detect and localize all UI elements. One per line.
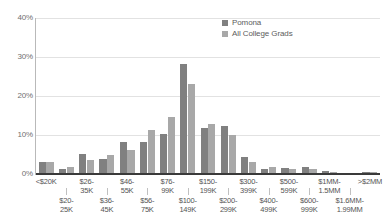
- x-axis-tick-label: $76- 99K: [151, 177, 185, 195]
- x-axis-tick-label: $26- 35K: [70, 177, 104, 195]
- x-axis-line: [36, 173, 380, 175]
- y-axis-tick-label: 40%: [3, 14, 33, 22]
- bar: [208, 124, 215, 174]
- legend-label: Pomona: [232, 17, 261, 28]
- legend-item-pomona: Pomona: [222, 17, 293, 28]
- bar-group: [201, 18, 216, 174]
- x-axis-tick-label: $20- 25K: [49, 196, 83, 214]
- bar-group: [322, 18, 337, 174]
- bar: [188, 84, 195, 174]
- x-axis-tick-label: $1MM- 1.5MM: [312, 177, 346, 195]
- x-axis-tick-mark: [188, 188, 189, 195]
- bar: [160, 134, 167, 174]
- bar-group: [362, 18, 377, 174]
- bar-group: [160, 18, 175, 174]
- x-axis-tick-label: $46- 55K: [110, 177, 144, 195]
- bar-group: [79, 18, 94, 174]
- bar: [107, 155, 114, 175]
- bar: [221, 126, 228, 174]
- bar: [241, 157, 248, 174]
- x-axis-tick-label: $1.6MM- 1.99MM: [333, 196, 367, 214]
- bar-group: [99, 18, 114, 174]
- bar: [148, 130, 155, 174]
- bar: [180, 64, 187, 174]
- y-axis-tick-label: 30%: [3, 53, 33, 61]
- legend-label: All College Grads: [232, 28, 293, 39]
- x-axis-tick-label: $300- 399K: [231, 177, 265, 195]
- bars-layer: [36, 18, 380, 174]
- bar: [168, 117, 175, 174]
- bar-group: [140, 18, 155, 174]
- bar-group: [120, 18, 135, 174]
- bar: [120, 142, 127, 174]
- legend-swatch-icon: [222, 31, 228, 37]
- x-axis-tick-mark: [147, 188, 148, 195]
- income-distribution-bar-chart: 0%10%20%30%40% Pomona All College Grads …: [0, 0, 384, 223]
- y-axis-tick-label: 20%: [3, 92, 33, 100]
- y-axis-tick-label: 10%: [3, 131, 33, 139]
- x-axis-labels: <$20K$20- 25K$26- 35K$36- 45K$46- 55K$56…: [0, 176, 384, 223]
- chart-legend: Pomona All College Grads: [222, 17, 293, 39]
- x-axis-tick-label: $100- 149K: [171, 196, 205, 214]
- bar: [99, 159, 106, 174]
- x-axis-tick-mark: [350, 188, 351, 195]
- x-axis-tick-mark: [269, 188, 270, 195]
- bar-group: [221, 18, 236, 174]
- bar-group: [302, 18, 317, 174]
- x-axis-tick-label: $500- 599K: [272, 177, 306, 195]
- x-axis-tick-label: $400- 499K: [252, 196, 286, 214]
- x-axis-tick-label: <$20K: [29, 177, 63, 186]
- x-axis-tick-mark: [66, 188, 67, 195]
- legend-swatch-icon: [222, 20, 228, 26]
- bar: [140, 142, 147, 174]
- x-axis-tick-label: $36- 45K: [90, 196, 124, 214]
- x-axis-tick-label: $56- 75K: [130, 196, 164, 214]
- x-axis-tick-mark: [107, 188, 108, 195]
- bar-group: [39, 18, 54, 174]
- bar: [87, 160, 94, 174]
- x-axis-tick-label: >$2MM: [353, 177, 384, 186]
- bar-group: [261, 18, 276, 174]
- legend-item-all-college-grads: All College Grads: [222, 28, 293, 39]
- bar-group: [59, 18, 74, 174]
- bar-group: [241, 18, 256, 174]
- x-axis-tick-label: $150- 199K: [191, 177, 225, 195]
- bar: [201, 128, 208, 174]
- bar: [79, 154, 86, 174]
- x-axis-tick-mark: [309, 188, 310, 195]
- bar-group: [180, 18, 195, 174]
- x-axis-tick-label: $200- 299K: [211, 196, 245, 214]
- bar-group: [281, 18, 296, 174]
- bar-group: [342, 18, 357, 174]
- x-axis-tick-mark: [228, 188, 229, 195]
- bar: [127, 150, 134, 174]
- bar: [229, 135, 236, 174]
- x-axis-tick-label: $600- 999K: [292, 196, 326, 214]
